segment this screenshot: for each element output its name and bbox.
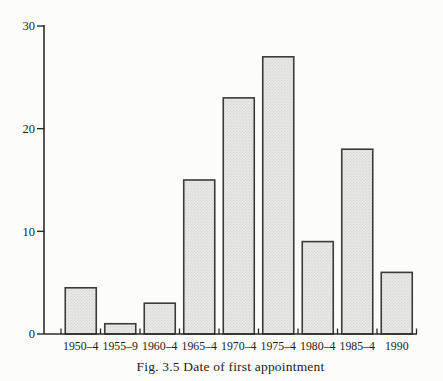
y-tick-label: 30 [23,19,36,33]
bar [263,57,294,334]
x-axis-label: 1950–4 [63,339,98,353]
bar [342,149,373,334]
scanned-figure-page: 01020301950–41955–91960–41965–41970–4197… [0,0,443,381]
bar [105,324,136,334]
bar [144,303,175,334]
y-tick-label: 0 [29,327,35,341]
bar [302,242,333,334]
bars-group [65,57,412,334]
y-tick-label: 10 [23,225,36,239]
bar [65,288,96,334]
bar [381,272,412,334]
bar-chart: 01020301950–41955–91960–41965–41970–4197… [0,0,443,381]
bar [184,180,215,334]
x-axis-label: 1990 [385,339,409,353]
x-axis-label: 1980–4 [300,339,335,353]
x-axis-label: 1985–4 [340,339,375,353]
x-axis-label: 1965–4 [182,339,217,353]
y-tick-label: 20 [23,122,36,136]
bar [223,98,254,334]
x-axis-label: 1975–4 [261,339,296,353]
x-axis-label: 1960–4 [142,339,177,353]
x-axis-label: 1970–4 [221,339,256,353]
figure-caption: Fig. 3.5 Date of first appointment [44,359,417,375]
x-axis-label: 1955–9 [103,339,138,353]
